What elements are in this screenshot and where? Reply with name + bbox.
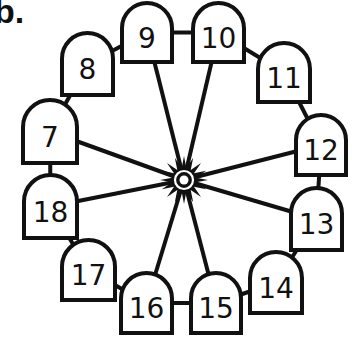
gondola-18: 18: [24, 175, 77, 238]
gondola-number: 15: [198, 292, 234, 325]
gondola-number: 17: [71, 259, 107, 292]
gondola-14: 14: [250, 252, 302, 313]
gondola-11: 11: [258, 43, 310, 102]
gondola-number: 9: [138, 22, 156, 55]
hub-icon: [160, 156, 208, 204]
gondola-number: 16: [129, 292, 165, 325]
gondola-number: 12: [303, 134, 339, 167]
gondola-number: 8: [79, 53, 97, 86]
gondola-number: 13: [299, 208, 335, 241]
gondola-8: 8: [62, 33, 113, 95]
gondola-10: 10: [193, 3, 244, 62]
gondola-13: 13: [291, 188, 342, 250]
gondola-7: 7: [23, 100, 77, 163]
gondola-9: 9: [122, 3, 172, 62]
gondola-number: 14: [258, 272, 294, 305]
ferris-wheel-diagram: b. 910111213141516171878: [0, 0, 353, 340]
gondola-12: 12: [296, 115, 346, 175]
gondola-number: 11: [266, 62, 302, 95]
gondola-15: 15: [191, 273, 241, 333]
gondola-number: 18: [33, 196, 69, 229]
gondola-17: 17: [62, 240, 115, 300]
gondola-16: 16: [121, 273, 172, 333]
gondola-number: 7: [41, 121, 59, 154]
ferris-wheel-svg: 910111213141516171878: [0, 0, 353, 340]
gondola-number: 10: [201, 22, 237, 55]
